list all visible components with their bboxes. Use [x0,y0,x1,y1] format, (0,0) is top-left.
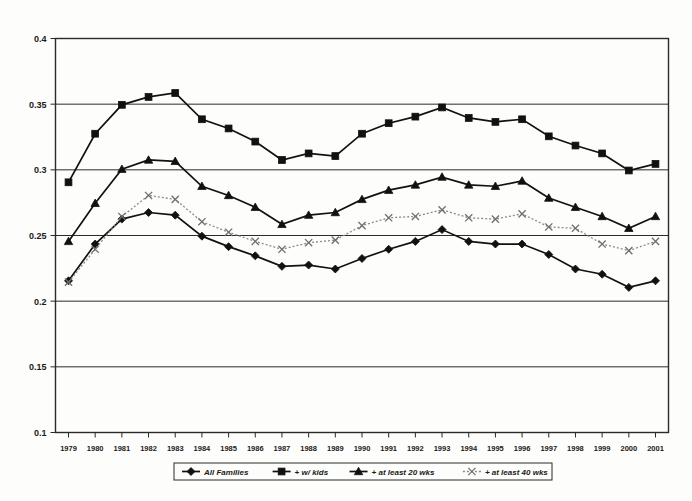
data-point-diamond [305,261,313,269]
data-point-x [358,222,365,229]
data-point-diamond [251,252,259,260]
data-point-square [199,116,206,123]
data-point-x [278,246,285,253]
y-tick-label: 0.15 [29,362,47,372]
y-tick-label: 0.2 [34,297,47,307]
x-tick-label: 1996 [514,444,531,453]
data-point-x [172,196,179,203]
y-tick-label: 0.4 [34,34,47,44]
x-axis-tick-labels: 1979198019811982198319841985198619871988… [60,444,664,453]
x-tick-label: 1998 [567,444,584,453]
x-tick-label: 1981 [114,444,131,453]
x-tick-label: 1997 [540,444,557,453]
x-tick-label: 1994 [460,444,478,453]
data-point-square [279,157,286,164]
data-point-triangle [651,212,659,219]
data-point-square [492,118,499,125]
data-point-diamond [358,254,366,262]
series-all-families [65,209,660,292]
data-point-square [519,116,526,123]
data-point-x [572,225,579,232]
data-point-x [652,238,659,245]
data-point-x [465,214,472,221]
data-point-square [412,113,419,120]
data-point-square [625,167,632,174]
data-point-square [652,161,659,168]
x-tick-label: 1979 [60,444,77,453]
data-point-square [332,153,339,160]
data-point-square [599,150,606,157]
x-tick-label: 1984 [194,444,212,453]
data-point-triangle [438,173,446,180]
x-tick-label: 1991 [380,444,397,453]
data-point-square [172,90,179,97]
y-tick-label: 0.3 [34,165,47,175]
data-point-square [385,120,392,127]
x-tick-label: 1992 [407,444,424,453]
x-tick-label: 1988 [300,444,317,453]
data-point-square [65,179,72,186]
x-tick-label: 2001 [647,444,664,453]
legend-label: + w/ kids [295,468,329,477]
series-at-least-20-wks [64,156,659,245]
data-point-diamond [411,237,419,245]
legend-label: All Families [203,468,249,477]
data-point-diamond [225,243,233,251]
series-line [69,93,656,182]
data-point-diamond [571,265,579,273]
data-point-x [252,238,259,245]
x-tick-label: 1999 [594,444,611,453]
legend-label: + at least 20 wks [372,468,435,477]
x-tick-label: 1993 [434,444,451,453]
x-tick-label: 1980 [87,444,104,453]
series-line [69,213,656,288]
data-point-triangle [518,177,526,184]
y-tick-label: 0.25 [29,231,47,241]
x-tick-label: 1995 [487,444,504,453]
y-axis-ticks [51,39,56,433]
data-point-diamond [652,277,660,285]
x-tick-label: 1987 [274,444,291,453]
x-tick-label: 1990 [354,444,371,453]
x-tick-label: 1986 [247,444,264,453]
data-point-square [252,138,259,145]
data-point-x [305,239,312,246]
data-point-square [359,130,366,137]
data-point-x [198,218,205,225]
data-point-diamond [625,283,633,291]
data-point-diamond [278,262,286,270]
data-point-diamond [518,240,526,248]
data-point-diamond [491,240,499,248]
data-point-square [545,133,552,140]
data-point-diamond [465,237,473,245]
series-line [69,195,656,282]
line-chart: 0.40.350.30.250.20.150.1 197919801981198… [0,0,692,501]
data-point-square [118,101,125,108]
data-point-triangle [545,194,553,201]
data-point-diamond [545,251,553,259]
data-point-diamond [438,226,446,234]
data-point-square [305,150,312,157]
data-point-diamond [385,245,393,253]
data-point-x [225,229,232,236]
data-series-group [64,90,659,292]
x-tick-label: 1985 [220,444,237,453]
legend-item-square[interactable]: + w/ kids [273,468,329,477]
data-point-x [599,240,606,247]
chart-page: 0.40.350.30.250.20.150.1 197919801981198… [0,0,692,501]
data-point-diamond [598,270,606,278]
x-tick-label: 1989 [327,444,344,453]
legend-marker-square [278,468,285,475]
y-tick-label: 0.35 [29,100,47,110]
x-axis-ticks [69,433,656,438]
data-point-x [518,210,525,217]
x-tick-label: 1982 [140,444,157,453]
data-point-square [572,142,579,149]
data-point-square [439,104,446,111]
legend-label: + at least 40 wks [485,468,548,477]
data-point-diamond [145,209,153,217]
chart-legend[interactable]: All Families+ w/ kids+ at least 20 wks+ … [174,463,552,480]
data-point-diamond [331,265,339,273]
y-axis-tick-labels: 0.40.350.30.250.20.150.1 [29,34,47,438]
data-point-square [465,115,472,122]
